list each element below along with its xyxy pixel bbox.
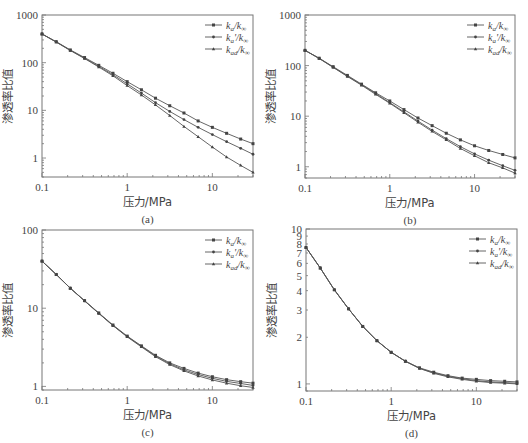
y-tick-label: 6 <box>297 257 303 269</box>
y-tick-label: 10 <box>27 104 39 116</box>
x-axis-title: 压力/MPa <box>385 196 434 210</box>
series-2 <box>40 259 254 388</box>
panel-caption: (a) <box>141 213 154 226</box>
legend-label: kad/k∞ <box>226 259 250 272</box>
x-tick-label: 10 <box>207 394 219 406</box>
plot-frame <box>42 15 253 177</box>
series-0 <box>304 49 517 160</box>
figure-svg: 0.11101101001000压力/MPa渗透率比值(a)ka/k∞ka'/k… <box>0 0 528 443</box>
series-2 <box>40 32 254 173</box>
y-tick-label: 1 <box>33 380 39 392</box>
x-tick-label: 1 <box>388 395 394 407</box>
series-2 <box>304 246 518 385</box>
x-axis-title: 压力/MPa <box>123 195 172 209</box>
x-tick-label: 10 <box>471 395 483 407</box>
legend-item-2: kad/k∞ <box>205 259 250 272</box>
y-tick-label: 10 <box>27 302 39 314</box>
series-0 <box>305 246 519 383</box>
plot-frame <box>305 15 515 178</box>
chart-panel-b: 0.11101101001000压力/MPa渗透率比值(b)ka/k∞ka'/k… <box>264 9 517 227</box>
y-tick-label: 100 <box>22 224 39 236</box>
y-tick-label: 100 <box>285 60 302 72</box>
x-axis-title: 压力/MPa <box>123 408 172 422</box>
y-tick-label: 1 <box>296 161 302 173</box>
chart-panel-a: 0.11101101001000压力/MPa渗透率比值(a)ka/k∞ka'/k… <box>1 9 255 226</box>
series-0 <box>41 32 255 145</box>
x-tick-label: 0.1 <box>35 394 49 406</box>
series-1 <box>41 260 255 387</box>
panel-caption: (c) <box>141 426 154 439</box>
chart-panel-c: 0.1110110100压力/MPa渗透率比值(c)ka/k∞ka'/k∞kad… <box>1 224 255 439</box>
y-tick-label: 5 <box>297 270 303 282</box>
plot-frame <box>306 229 517 391</box>
series-2 <box>303 49 516 175</box>
y-tick-label: 10 <box>291 223 303 235</box>
y-tick-label: 1 <box>33 152 39 164</box>
y-tick-label: 100 <box>22 57 39 69</box>
y-axis-title: 渗透率比值 <box>264 68 278 124</box>
y-tick-label: 3 <box>297 304 303 316</box>
x-axis-title: 压力/MPa <box>387 409 436 423</box>
series-0 <box>41 260 255 385</box>
legend-label: kad/k∞ <box>226 44 250 57</box>
x-tick-label: 10 <box>207 181 219 193</box>
x-tick-label: 1 <box>124 394 130 406</box>
y-axis-title: 渗透率比值 <box>1 282 15 338</box>
panel-caption: (b) <box>404 214 417 227</box>
y-tick-label: 10 <box>290 110 302 122</box>
y-axis-title: 渗透率比值 <box>265 282 279 338</box>
legend-label: kad/k∞ <box>490 258 514 271</box>
y-tick-label: 4 <box>297 285 303 297</box>
x-tick-label: 1 <box>387 182 393 194</box>
x-tick-label: 10 <box>469 182 481 194</box>
plot-frame <box>42 230 253 390</box>
x-tick-label: 1 <box>124 181 130 193</box>
legend-item-2: kad/k∞ <box>467 44 512 57</box>
legend-item-2: kad/k∞ <box>469 258 514 271</box>
series-1 <box>304 49 517 172</box>
y-tick-label: 2 <box>297 331 303 343</box>
legend-label: kad/k∞ <box>488 44 512 57</box>
x-tick-label: 0.1 <box>299 395 313 407</box>
chart-panel-d: 0.111012345678910压力/MPa渗透率比值(d)ka/k∞ka'/… <box>265 223 519 440</box>
panel-caption: (d) <box>405 427 418 440</box>
y-tick-label: 1000 <box>16 9 39 21</box>
y-tick-label: 1000 <box>279 9 302 21</box>
x-tick-label: 0.1 <box>35 181 49 193</box>
y-tick-label: 1 <box>297 378 303 390</box>
legend-item-2: kad/k∞ <box>205 44 250 57</box>
x-tick-label: 0.1 <box>298 182 312 194</box>
y-axis-title: 渗透率比值 <box>1 68 15 124</box>
